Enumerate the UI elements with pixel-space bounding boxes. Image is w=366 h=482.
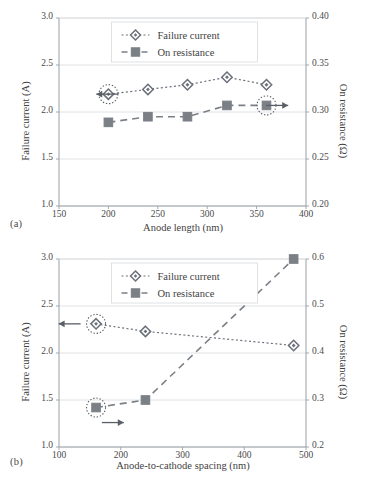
data-point	[144, 112, 153, 121]
panel-a-y-tick-1.5: 1.5	[0, 152, 53, 162]
panel-b: (b) Anode-to-cathode spacing (nm) Failur…	[0, 241, 366, 482]
series-on-resistance	[104, 101, 271, 127]
data-point	[104, 118, 113, 127]
panel-b-y2-tick-0.6: 0.6	[312, 252, 352, 262]
series-failure-current	[103, 72, 271, 99]
panel-a-x-tick-250: 250	[133, 209, 183, 219]
panel-b-y2-tick-0.4: 0.4	[312, 346, 352, 356]
legend-label: Failure current	[158, 30, 220, 41]
panel-b-y-tick-1.5: 1.5	[0, 393, 53, 403]
series-failure-current	[91, 319, 299, 351]
legend-label: Failure current	[158, 271, 220, 282]
panel-b-y-tick-1.0: 1.0	[0, 440, 53, 450]
panel-a-x-tick-350: 350	[232, 209, 282, 219]
data-point	[92, 403, 101, 412]
data-point	[223, 101, 232, 110]
panel-a-y2-tick-0.40: 0.40	[312, 11, 352, 21]
panel-b-y-tick-2.5: 2.5	[0, 299, 53, 309]
panel-a-y2-tick-0.20: 0.20	[312, 199, 352, 209]
panel-a-y-tick-2.5: 2.5	[0, 58, 53, 68]
panel-a-y2-tick-0.35: 0.35	[312, 58, 352, 68]
data-point	[289, 255, 298, 264]
panel-a-y-tick-1.0: 1.0	[0, 199, 53, 209]
panel-b-x-tick-400: 400	[219, 450, 269, 460]
panel-b-x-tick-200: 200	[96, 450, 146, 460]
panel-a: (a) Anode length (nm) Failure current (A…	[0, 0, 366, 241]
panel-b-x-tick-500: 500	[281, 450, 331, 460]
panel-a-x-tick-150: 150	[34, 209, 84, 219]
panel-b-y2-tick-0.3: 0.3	[312, 393, 352, 403]
panel-a-x-tick-400: 400	[281, 209, 331, 219]
panel-b-y-tick-2.0: 2.0	[0, 346, 53, 356]
panel-a-y2-tick-0.30: 0.30	[312, 105, 352, 115]
panel-b-y-tick-3.0: 3.0	[0, 252, 53, 262]
panel-b-right-axis-arrow	[102, 419, 124, 426]
panel-a-y-tick-3.0: 3.0	[0, 11, 53, 21]
data-point	[183, 112, 192, 121]
panel-b-y2-tick-0.5: 0.5	[312, 299, 352, 309]
panel-b-legend: Failure currentOn resistance	[112, 263, 258, 303]
panel-a-legend: Failure currentOn resistance	[112, 22, 258, 62]
legend-label: On resistance	[158, 47, 215, 58]
figure-two-panel-line-charts: (a) Anode length (nm) Failure current (A…	[0, 0, 366, 482]
panel-b-x-tick-100: 100	[34, 450, 84, 460]
panel-a-x-tick-300: 300	[182, 209, 232, 219]
data-point	[141, 396, 150, 405]
panel-a-x-tick-200: 200	[83, 209, 133, 219]
panel-b-y2-tick-0.2: 0.2	[312, 440, 352, 450]
panel-a-y2-tick-0.25: 0.25	[312, 152, 352, 162]
legend-label: On resistance	[158, 288, 215, 299]
panel-a-y-tick-2.0: 2.0	[0, 105, 53, 115]
panel-b-left-axis-arrow	[59, 320, 81, 327]
panel-b-x-tick-300: 300	[158, 450, 208, 460]
